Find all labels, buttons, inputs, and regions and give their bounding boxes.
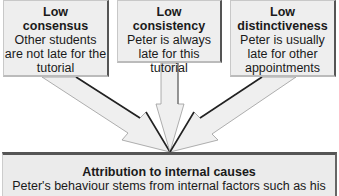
box-low-consistency: Low consistency Peter is always late for…	[117, 0, 222, 63]
box-description: Peter is always late for this tutorial	[118, 33, 220, 75]
result-description: Peter's behaviour stems from internal fa…	[3, 179, 335, 193]
box-title: Low	[4, 5, 107, 19]
arrow-left	[42, 77, 170, 152]
box-title: Low	[231, 5, 334, 19]
box-attribution-internal: Attribution to internal causes Peter's b…	[2, 152, 337, 196]
box-subtitle: distinctiveness	[231, 19, 334, 33]
box-description: Peter is usually late for other appointm…	[231, 33, 334, 75]
box-title: Low	[118, 5, 220, 19]
box-subtitle: consistency	[118, 19, 220, 33]
arrow-right	[170, 77, 296, 152]
box-subtitle: consensus	[4, 19, 107, 33]
box-low-distinctiveness: Low distinctiveness Peter is usually lat…	[230, 0, 336, 77]
result-title: Attribution to internal causes	[3, 165, 335, 179]
box-description: Other students are not late for the tuto…	[4, 33, 107, 75]
box-low-consensus: Low consensus Other students are not lat…	[3, 0, 109, 77]
